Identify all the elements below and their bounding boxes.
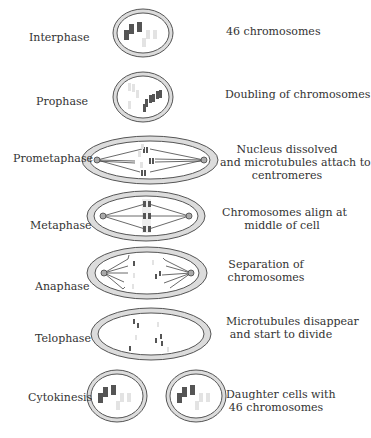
desc-telophase: Microtubules disappear and start to divi… (226, 315, 336, 341)
desc-line: Doubling of chromosomes (225, 88, 370, 101)
desc-line: Chromosomes align at (222, 206, 342, 219)
label-prometaphase: Prometaphase (13, 152, 93, 165)
label-telophase: Telophase (35, 332, 91, 345)
desc-anaphase: Separation of chromosomes (226, 258, 306, 284)
desc-line: Daughter cells with (226, 388, 326, 401)
label-interphase: Interphase (29, 31, 89, 44)
label-anaphase: Anaphase (35, 280, 89, 293)
cell-prophase (113, 72, 173, 122)
desc-line: centromeres (220, 169, 354, 182)
desc-line: Separation of (226, 258, 306, 271)
cell-telophase (91, 308, 211, 360)
cell-interphase (113, 9, 173, 57)
cell-cytokinesis-right (166, 370, 226, 422)
desc-line: 46 chromosomes (226, 401, 326, 414)
desc-line: Microtubules disappear (226, 315, 336, 328)
label-cytokinesis: Cytokinesis (28, 391, 92, 404)
desc-line: 46 chromosomes (226, 25, 321, 38)
cell-metaphase (87, 191, 205, 241)
cell-prometaphase (82, 136, 218, 184)
desc-line: and microtubules attach to (220, 156, 354, 169)
desc-cytokinesis: Daughter cells with 46 chromosomes (226, 388, 326, 414)
desc-metaphase: Chromosomes align at middle of cell (222, 206, 342, 232)
label-metaphase: Metaphase (30, 219, 92, 232)
desc-line: middle of cell (222, 219, 342, 232)
desc-line: Nucleus dissolved (220, 143, 354, 156)
cell-anaphase (87, 247, 207, 299)
desc-line: chromosomes (226, 271, 306, 284)
desc-line: and start to divide (226, 328, 336, 341)
desc-prophase: Doubling of chromosomes (225, 88, 370, 101)
label-prophase: Prophase (36, 95, 88, 108)
desc-prometaphase: Nucleus dissolved and microtubules attac… (220, 143, 354, 182)
desc-interphase: 46 chromosomes (226, 25, 321, 38)
cell-cytokinesis-left (87, 370, 147, 422)
